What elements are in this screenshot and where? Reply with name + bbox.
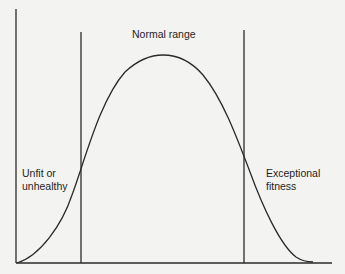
exceptional-label-line1: Exceptional: [266, 167, 320, 180]
normal-range-label: Normal range: [132, 28, 196, 41]
unfit-label-line1: Unfit or: [22, 167, 68, 180]
bell-curve: [17, 55, 313, 263]
unfit-label: Unfit or unhealthy: [22, 167, 68, 193]
exceptional-fitness-label: Exceptional fitness: [266, 167, 320, 193]
exceptional-label-line2: fitness: [266, 180, 320, 193]
fitness-distribution-diagram: [0, 0, 345, 274]
unfit-label-line2: unhealthy: [22, 180, 68, 193]
